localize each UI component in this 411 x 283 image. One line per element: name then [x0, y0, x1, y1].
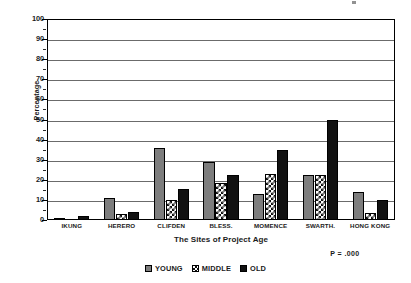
bar-young-momence[interactable] [253, 194, 264, 220]
bar-middle-clifden[interactable] [166, 200, 177, 220]
x-tick-label: SWARTH. [306, 222, 336, 229]
bar-middle-bless[interactable] [215, 183, 226, 220]
scan-artifact [352, 1, 356, 4]
legend-label: OLD [250, 264, 266, 273]
y-minor-tick-mark [43, 170, 46, 171]
legend-item-middle[interactable]: MIDDLE [192, 264, 231, 273]
y-minor-tick-mark [43, 109, 46, 110]
y-tick-label: 40 [19, 136, 44, 144]
bar-group [253, 19, 288, 220]
bar-chart-figure: Percentage 0102030405060708090100 IKUNGH… [0, 0, 411, 283]
y-tick-label: 90 [19, 35, 44, 43]
y-tick-label: 60 [19, 95, 44, 103]
checkerboard-swatch [192, 265, 199, 272]
y-tick-label: 30 [19, 156, 44, 164]
y-axis-tick-labels: 0102030405060708090100 [19, 19, 44, 220]
y-tick-label: 50 [19, 116, 44, 124]
bar-young-ikung[interactable] [54, 218, 65, 220]
bar-young-hongkong[interactable] [353, 192, 364, 220]
bar-group [303, 19, 338, 220]
x-tick-label: IKUNG [62, 222, 83, 229]
bar-old-ikung[interactable] [78, 216, 89, 220]
bar-old-hongkong[interactable] [377, 200, 388, 220]
bar-old-herero[interactable] [128, 212, 139, 220]
solid-black-swatch [240, 265, 247, 272]
bar-young-bless[interactable] [203, 162, 214, 220]
bar-young-clifden[interactable] [154, 148, 165, 220]
x-tick-label: HERERO [108, 222, 135, 229]
bar-young-herero[interactable] [104, 198, 115, 220]
legend-item-old[interactable]: OLD [240, 264, 266, 273]
x-tick-label: MOMENCE [254, 222, 287, 229]
bar-group [54, 19, 89, 220]
bar-young-swarth[interactable] [303, 175, 314, 220]
legend-label: YOUNG [155, 264, 183, 273]
chart-legend: YOUNGMIDDLEOLD [0, 264, 411, 273]
y-tick-label: 20 [19, 176, 44, 184]
y-tick-label: 100 [19, 15, 44, 23]
y-minor-tick-mark [43, 150, 46, 151]
y-tick-label: 80 [19, 55, 44, 63]
solid-gray-swatch [145, 265, 152, 272]
bar-middle-hongkong[interactable] [365, 213, 376, 220]
y-tick-label: 0 [19, 216, 44, 224]
bar-group [353, 19, 388, 220]
bar-old-clifden[interactable] [178, 189, 189, 220]
y-tick-label: 70 [19, 75, 44, 83]
bars-layer [47, 19, 395, 220]
legend-label: MIDDLE [202, 264, 231, 273]
y-minor-tick-mark [43, 69, 46, 70]
bar-group [104, 19, 139, 220]
bar-middle-momence[interactable] [265, 174, 276, 220]
y-minor-tick-mark [43, 49, 46, 50]
y-minor-tick-mark [43, 130, 46, 131]
y-minor-tick-mark [43, 190, 46, 191]
bar-middle-swarth[interactable] [315, 175, 326, 220]
x-tick-label: CLIFDEN [157, 222, 185, 229]
bar-group [203, 19, 238, 220]
y-tick-label: 10 [19, 196, 44, 204]
y-minor-tick-mark [43, 210, 46, 211]
p-value-annotation: P = .000 [330, 250, 359, 257]
x-tick-label: HONG KONG [350, 222, 390, 229]
bar-old-swarth[interactable] [327, 120, 338, 221]
x-axis-title: The Sites of Project Age [47, 235, 395, 244]
bar-old-momence[interactable] [277, 150, 288, 220]
bar-old-bless[interactable] [227, 175, 238, 220]
x-axis-tick-labels: IKUNGHEREROCLIFDENBLESS.MOMENCESWARTH.HO… [47, 222, 395, 234]
y-minor-tick-mark [43, 29, 46, 30]
y-tick-mark [42, 220, 47, 221]
x-tick-label: BLESS. [209, 222, 232, 229]
y-minor-tick-mark [43, 89, 46, 90]
legend-item-young[interactable]: YOUNG [145, 264, 183, 273]
bar-middle-herero[interactable] [116, 214, 127, 220]
bar-group [154, 19, 189, 220]
